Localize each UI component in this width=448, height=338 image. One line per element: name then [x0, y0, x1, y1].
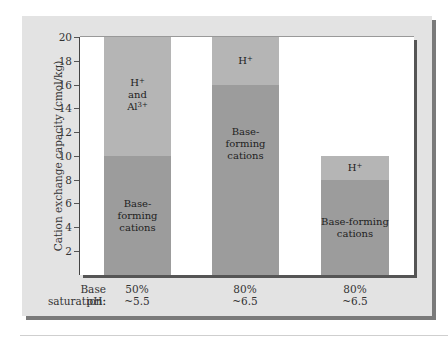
y-tick [74, 61, 79, 62]
y-tick-label: 6 [50, 197, 72, 209]
y-tick-label: 2 [50, 245, 72, 257]
y-tick-label: 18 [50, 55, 72, 67]
base-saturation-value: 50% [97, 283, 177, 295]
ph-value: ~6.5 [315, 295, 395, 307]
base-segment-label: Base-forming cations [212, 126, 279, 162]
acid-segment-label: H+ and Al3+ [104, 77, 171, 113]
y-axis-line [79, 37, 80, 275]
y-tick-label: 12 [50, 126, 72, 138]
y-tick [74, 156, 79, 157]
y-tick-label: 10 [50, 150, 72, 162]
y-tick-label: 14 [50, 102, 72, 114]
acid-segment-label: H+ [212, 55, 279, 67]
y-tick [74, 251, 79, 252]
y-tick-label: 8 [50, 174, 72, 186]
y-tick-label: 20 [50, 31, 72, 43]
acid-segment: H+ and Al3+ [104, 37, 171, 156]
base-segment: Base-forming cations [104, 156, 171, 275]
acid-segment: H+ [321, 156, 389, 180]
base-segment-label: Base-forming cations [104, 198, 171, 234]
y-tick [74, 227, 79, 228]
bar-soil-2: H+ Base-forming cations [212, 37, 279, 275]
base-segment: Base-forming cations [321, 180, 389, 275]
y-tick-label: 4 [50, 221, 72, 233]
y-tick [74, 108, 79, 109]
x-axis-line [83, 275, 417, 278]
base-saturation-value: 80% [205, 283, 285, 295]
base-saturation-value: 80% [315, 283, 395, 295]
y-tick [74, 132, 79, 133]
panel-shadow [26, 316, 436, 320]
base-segment-label: Base-forming cations [321, 216, 389, 240]
ph-label: pH: [20, 295, 106, 307]
bar-soil-3: H+ Base-forming cations [321, 156, 389, 275]
ph-value: ~6.5 [205, 295, 285, 307]
y-tick [74, 85, 79, 86]
y-tick-label: 16 [50, 79, 72, 91]
y-tick [74, 203, 79, 204]
panel-shadow [432, 20, 436, 320]
plot-shadow [414, 40, 417, 278]
acid-segment-label: H+ [321, 162, 389, 174]
acid-segment: H+ [212, 37, 279, 85]
divider [20, 335, 448, 336]
bar-soil-1: H+ and Al3+ Base-forming cations [104, 37, 171, 275]
y-tick [74, 37, 79, 38]
ph-value: ~5.5 [97, 295, 177, 307]
y-tick [74, 180, 79, 181]
base-segment: Base-forming cations [212, 85, 279, 275]
